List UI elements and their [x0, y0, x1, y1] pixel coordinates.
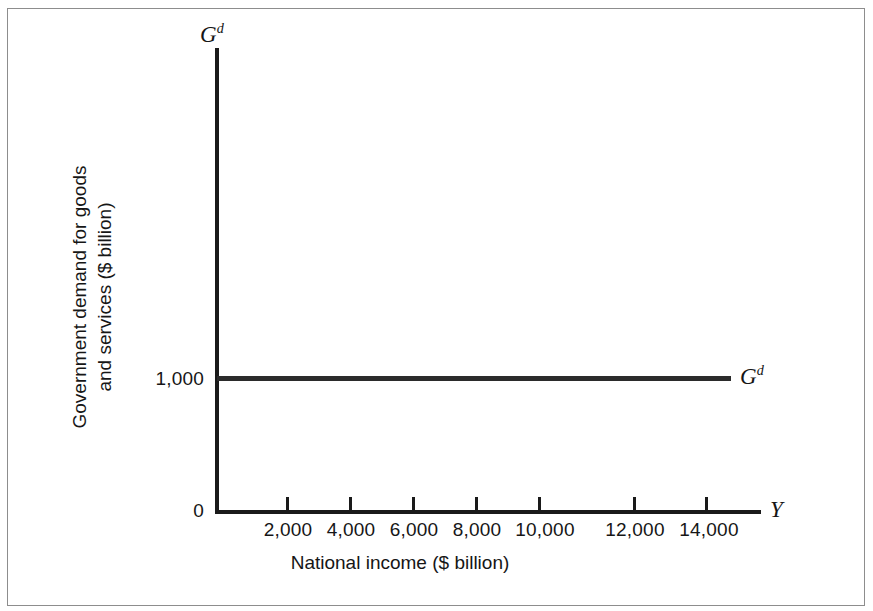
- figure-container: Gd Y 2,000 4,000 6,000 8,000 10,000 12,0…: [0, 0, 873, 611]
- y-axis-symbol-base: G: [200, 22, 217, 47]
- x-tick-label: 10,000: [515, 519, 574, 541]
- x-tick-mark: [633, 497, 636, 511]
- y-axis-title-line-1: Government demand for goods: [67, 132, 92, 462]
- curve-label-superscript: d: [757, 362, 764, 378]
- y-axis-symbol-superscript: d: [217, 20, 224, 36]
- x-tick-label: 2,000: [264, 519, 313, 541]
- x-axis-title: National income ($ billion): [215, 552, 585, 574]
- y-axis-title-line-2: and services ($ billion): [92, 132, 117, 462]
- x-tick-mark: [705, 497, 708, 511]
- x-tick-mark: [286, 497, 289, 511]
- y-axis-symbol: Gd: [200, 22, 224, 48]
- x-axis-line: [215, 510, 761, 514]
- x-tick-mark: [412, 497, 415, 511]
- government-demand-curve-label: Gd: [740, 364, 764, 390]
- x-tick-label: 8,000: [453, 519, 502, 541]
- x-axis-symbol: Y: [770, 497, 783, 523]
- government-demand-line: [217, 376, 731, 381]
- x-tick-mark: [475, 497, 478, 511]
- curve-label-base: G: [740, 364, 757, 389]
- x-tick-mark: [538, 497, 541, 511]
- y-axis-title: Government demand for goods and services…: [67, 132, 117, 462]
- y-axis-line: [215, 48, 219, 514]
- x-tick-label: 12,000: [605, 519, 664, 541]
- y-tick-label: 1,000: [128, 368, 204, 390]
- x-tick-label: 4,000: [327, 519, 376, 541]
- x-tick-label: 14,000: [679, 519, 738, 541]
- x-tick-label: 6,000: [390, 519, 439, 541]
- x-tick-mark: [349, 497, 352, 511]
- origin-label: 0: [128, 500, 204, 522]
